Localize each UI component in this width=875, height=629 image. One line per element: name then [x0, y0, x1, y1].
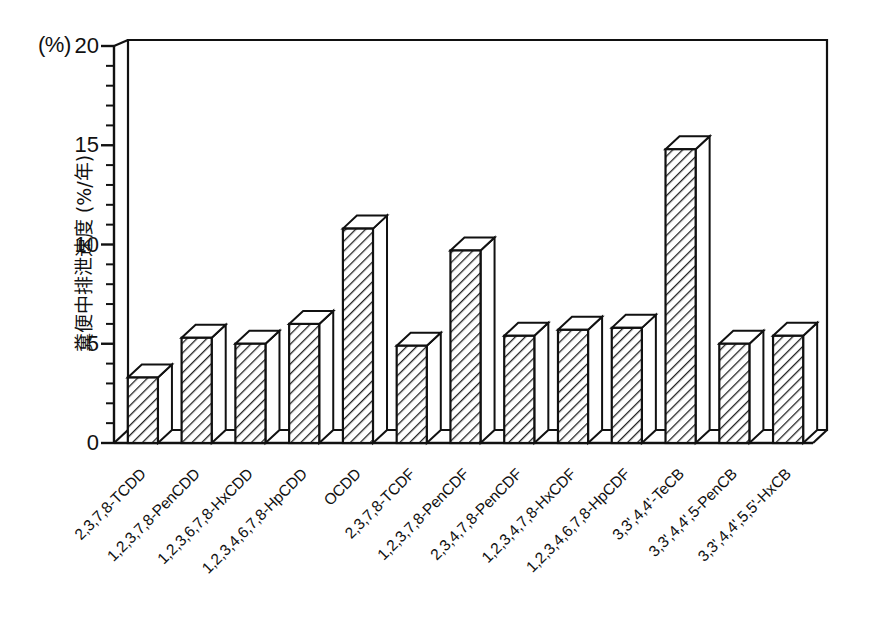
bar: [182, 325, 226, 443]
bar: [450, 237, 494, 443]
bar: [343, 216, 387, 443]
bar: [666, 136, 710, 443]
bar: [773, 323, 817, 443]
bar-series: [128, 136, 817, 443]
bar: [612, 315, 656, 443]
bar: [397, 333, 441, 443]
bar: [235, 331, 279, 443]
bar: [289, 311, 333, 443]
y-axis-ticks: [101, 46, 114, 443]
bar-chart: (%) 糞便中排泄速度 (%/年) 05101520 2,3,7,8-TCDD1…: [0, 0, 875, 629]
bar: [504, 323, 548, 443]
bar: [719, 331, 763, 443]
plot-area: [0, 0, 875, 629]
bar: [558, 317, 602, 443]
bar: [128, 364, 172, 443]
